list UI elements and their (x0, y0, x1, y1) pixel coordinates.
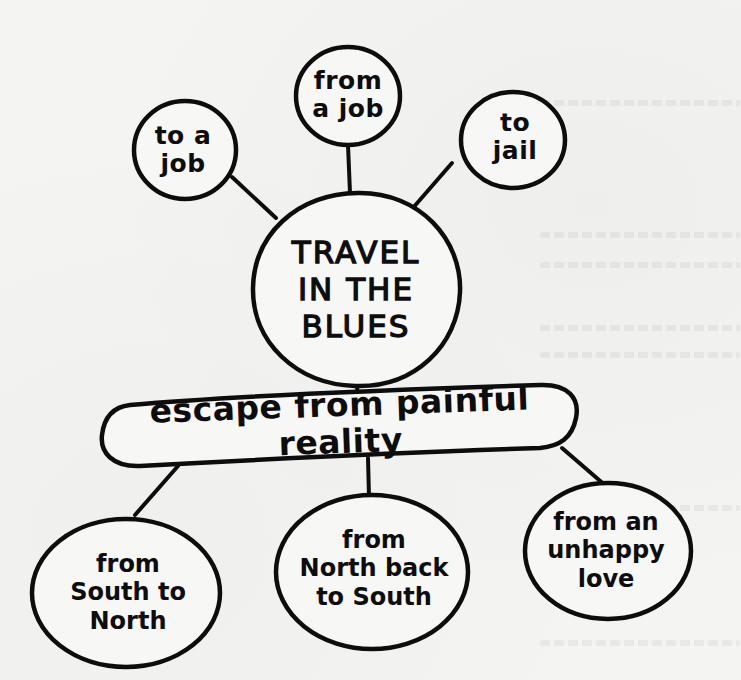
edge-escape-north-back-to-south (368, 458, 369, 497)
node-north-back-to-south-label: from North back to South (300, 526, 449, 611)
node-south-to-north-label: from South to North (70, 550, 186, 635)
node-from-a-job-label: from a job (312, 67, 384, 123)
edge-escape-south-to-north (135, 466, 178, 515)
node-to-jail-label: to jail (493, 109, 538, 165)
edge-center-to-a-job (232, 177, 276, 218)
diagram-page: to a job from a job to jail TRAVEL IN TH… (0, 0, 741, 680)
node-escape-label: escape from painful reality (138, 380, 541, 468)
edge-center-from-a-job (348, 145, 350, 193)
node-to-a-job-label: to a job (155, 122, 212, 178)
edge-center-to-jail (412, 163, 452, 209)
edge-escape-unhappy-love (562, 448, 606, 486)
node-center-label: TRAVEL IN THE BLUES (292, 234, 421, 346)
node-unhappy-love-label: from an unhappy love (547, 508, 664, 593)
